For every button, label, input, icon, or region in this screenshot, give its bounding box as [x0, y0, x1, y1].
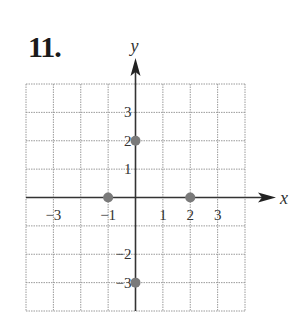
y-tick-label: −3 — [116, 275, 132, 291]
coordinate-plane: xy−3−1123321−2−3 — [0, 0, 307, 318]
data-point — [185, 193, 195, 203]
x-axis-label: x — [279, 188, 288, 208]
y-axis-label: y — [129, 36, 139, 56]
data-point — [103, 193, 113, 203]
x-tick-label: 3 — [214, 207, 222, 223]
data-point — [131, 136, 141, 146]
y-tick-label: 3 — [124, 104, 132, 120]
y-tick-label: −2 — [116, 246, 132, 262]
x-tick-label: −1 — [100, 207, 116, 223]
y-tick-label: 2 — [124, 133, 132, 149]
y-tick-label: 1 — [124, 161, 132, 177]
x-tick-label: −3 — [45, 207, 61, 223]
x-tick-label: 1 — [159, 207, 167, 223]
data-point — [131, 278, 141, 288]
x-tick-label: 2 — [187, 207, 195, 223]
